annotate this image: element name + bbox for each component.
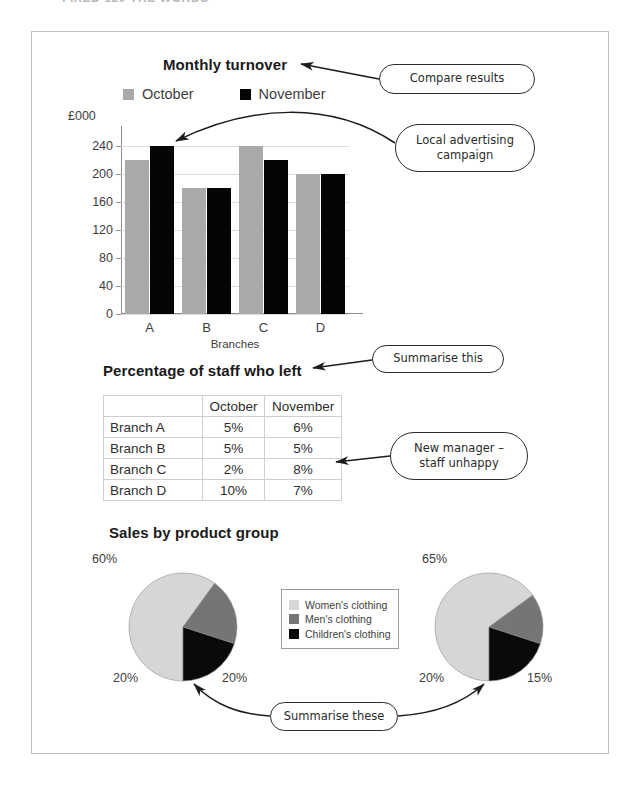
clipped-header-strip: FIXED 120 THE WORDS [0, 0, 639, 12]
table-row: Branch C2%8% [104, 459, 342, 480]
pie-left-svg [128, 572, 238, 682]
y-tick-label: 120 [92, 223, 113, 237]
bar-B-october [182, 188, 206, 314]
x-axis-title: Branches [211, 338, 260, 350]
x-tick-label-B: B [202, 320, 211, 335]
pie-right-label-women: 65% [422, 552, 447, 566]
legend-label-november: November [259, 86, 326, 102]
pie-legend-label-childrens: Children's clothing [305, 628, 390, 640]
y-tick [116, 146, 121, 147]
y-tick [116, 286, 121, 287]
y-tick-label: 80 [99, 251, 113, 265]
y-tick [116, 230, 121, 231]
bar-C-november [264, 160, 288, 314]
y-tick [116, 314, 121, 315]
pies-title: Sales by product group [109, 524, 279, 541]
bar-chart: October November £000 Branches 040801201… [63, 86, 393, 336]
bar-A-november [150, 146, 174, 314]
callout-local-advertising[interactable]: Local advertising campaign [395, 124, 535, 172]
table-cell-branch: Branch B [104, 438, 203, 459]
callout-local-advertising-line2: campaign [437, 148, 494, 163]
table-cell-october: 5% [203, 438, 265, 459]
table-row: Branch B5%5% [104, 438, 342, 459]
pie-left-label-men: 20% [222, 671, 247, 685]
table-row: Branch A5%6% [104, 417, 342, 438]
table-corner-cell [104, 396, 203, 417]
callout-local-advertising-line1: Local advertising [416, 133, 514, 148]
legend-item-november: November [240, 86, 326, 102]
bar-B-november [207, 188, 231, 314]
legend-swatch-october [123, 89, 134, 100]
pie-right-svg [434, 572, 544, 682]
x-tick-label-D: D [316, 320, 325, 335]
table-cell-branch: Branch C [104, 459, 203, 480]
callout-summarise-these[interactable]: Summarise these [270, 702, 398, 731]
staff-table-wrapper: October November Branch A5%6%Branch B5%5… [103, 395, 342, 501]
legend-swatch-november [240, 89, 251, 100]
x-tick-label-C: C [259, 320, 268, 335]
pie-right-label-children: 20% [419, 671, 444, 685]
pie-left-label-children: 20% [113, 671, 138, 685]
table-cell-branch: Branch D [104, 480, 203, 501]
y-axis-title: £000 [68, 109, 96, 123]
callout-new-manager[interactable]: New manager – staff unhappy [390, 432, 528, 480]
pie-legend-swatch-mens [289, 614, 299, 624]
pie-legend-item-childrens: Children's clothing [289, 628, 391, 640]
table-col-october: October [203, 396, 265, 417]
y-tick-label: 200 [92, 167, 113, 181]
clipped-header-text: FIXED 120 THE WORDS [62, 0, 209, 5]
y-tick [116, 174, 121, 175]
y-tick-label: 240 [92, 139, 113, 153]
table-cell-branch: Branch A [104, 417, 203, 438]
bar-C-october [239, 146, 263, 314]
table-cell-october: 10% [203, 480, 265, 501]
table-cell-october: 2% [203, 459, 265, 480]
legend-label-october: October [142, 86, 194, 102]
bar-chart-title: Monthly turnover [163, 56, 287, 73]
pie-legend: Women's clothing Men's clothing Children… [281, 589, 399, 649]
bar-A-october [125, 160, 149, 314]
callout-summarise-these-text: Summarise these [284, 709, 385, 724]
bar-chart-legend: October November [123, 86, 325, 102]
legend-item-october: October [123, 86, 194, 102]
callout-compare-results[interactable]: Compare results [379, 64, 535, 94]
callout-new-manager-line2: staff unhappy [419, 456, 498, 471]
y-tick-label: 0 [106, 307, 113, 321]
bar-chart-plot-area: Branches 04080120160200240ABCD [121, 132, 349, 314]
table-cell-november: 8% [265, 459, 342, 480]
y-tick-label: 160 [92, 195, 113, 209]
table-cell-november: 6% [265, 417, 342, 438]
table-body: Branch A5%6%Branch B5%5%Branch C2%8%Bran… [104, 417, 342, 501]
pie-legend-swatch-childrens [289, 629, 299, 639]
table-cell-november: 7% [265, 480, 342, 501]
pie-legend-label-mens: Men's clothing [305, 613, 372, 625]
table-col-november: November [265, 396, 342, 417]
callout-summarise-this-text: Summarise this [393, 351, 483, 366]
y-tick-label: 40 [99, 279, 113, 293]
callout-summarise-this[interactable]: Summarise this [372, 345, 504, 373]
pie-legend-swatch-womens [289, 600, 299, 610]
staff-table: October November Branch A5%6%Branch B5%5… [103, 395, 342, 501]
x-tick-label-A: A [145, 320, 154, 335]
bar-D-october [296, 174, 320, 314]
staff-table-title: Percentage of staff who left [103, 362, 302, 379]
table-header-row: October November [104, 396, 342, 417]
table-row: Branch D10%7% [104, 480, 342, 501]
table-cell-october: 5% [203, 417, 265, 438]
bar-D-november [321, 174, 345, 314]
y-tick [116, 202, 121, 203]
pie-legend-item-mens: Men's clothing [289, 613, 391, 625]
pie-chart-left [128, 572, 238, 682]
pie-legend-label-womens: Women's clothing [305, 599, 387, 611]
pie-left-label-women: 60% [92, 552, 117, 566]
callout-new-manager-line1: New manager – [414, 441, 504, 456]
pie-chart-right [434, 572, 544, 682]
table-cell-november: 5% [265, 438, 342, 459]
gridline [121, 314, 349, 315]
callout-compare-results-text: Compare results [410, 71, 504, 86]
pie-right-label-men: 15% [527, 671, 552, 685]
y-tick [116, 258, 121, 259]
pie-legend-item-womens: Women's clothing [289, 599, 391, 611]
